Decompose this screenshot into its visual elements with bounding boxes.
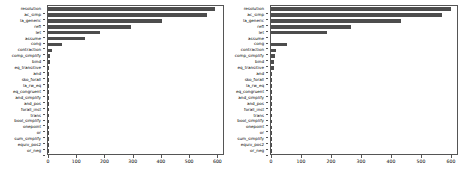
y-tick-label-refl: refl (34, 24, 41, 29)
bar-series-right (271, 6, 457, 154)
bar-ac_simp (48, 13, 207, 17)
y-tick-label-contraction: contraction (18, 48, 41, 53)
y-tick-label-bool_simplify: bool_simplify (14, 119, 41, 124)
y-tick-label-bool_simplify: bool_simplify (237, 119, 264, 124)
y-tick-mark (266, 108, 268, 109)
y-tick-mark (266, 137, 268, 138)
x-tick-label-400: 400 (387, 159, 396, 164)
y-tick-mark (43, 149, 45, 150)
y-tick-label-sum_simplify: sum_simplify (14, 137, 41, 142)
x-tick-mark (271, 155, 272, 158)
bar-refl (271, 25, 351, 29)
y-tick-label-onepoint: onepoint (23, 125, 41, 130)
chart-panel-right: resolutionac_simpla_genericreflletassume… (234, 0, 468, 189)
bar-resolution (271, 7, 451, 11)
y-tick-mark (266, 31, 268, 32)
x-tick-mark (361, 155, 362, 158)
x-tick-label-500: 500 (417, 159, 426, 164)
y-tick-label-ac_simp: ac_simp (247, 13, 264, 18)
y-tick-label-resolution: resolution (21, 7, 41, 12)
y-tick-label-eq_congruent: eq_congruent (13, 90, 41, 95)
y-tick-label-la_rw_eq: la_rw_eq (246, 84, 264, 89)
y-axis-labels-right: resolutionac_simpla_genericreflletassume… (234, 5, 268, 155)
x-tick-label-300: 300 (128, 159, 137, 164)
x-tick-label-600: 600 (447, 159, 456, 164)
y-tick-mark (266, 149, 268, 150)
y-tick-label-assume: assume (248, 36, 264, 41)
y-tick-label-cong: cong (31, 42, 41, 47)
y-tick-label-la_generic: la_generic (243, 19, 264, 24)
x-tick-mark (189, 155, 190, 158)
y-tick-label-bind: bind (255, 60, 264, 65)
y-tick-mark (43, 96, 45, 97)
y-tick-mark (43, 137, 45, 138)
y-tick-mark (266, 96, 268, 97)
y-tick-mark (43, 84, 45, 85)
y-tick-mark (266, 66, 268, 67)
x-tick-label-0: 0 (270, 159, 273, 164)
y-tick-mark (266, 84, 268, 85)
bar-and (48, 72, 49, 76)
y-tick-label-and_pos: and_pos (247, 101, 264, 106)
y-tick-label-eq_transitive: eq_transitive (237, 66, 264, 71)
x-tick-mark (451, 155, 452, 158)
plot-area-left (47, 5, 224, 155)
y-tick-mark (266, 155, 268, 156)
y-tick-mark (43, 66, 45, 67)
x-tick-label-500: 500 (185, 159, 194, 164)
y-tick-mark (43, 155, 45, 156)
bar-refl (48, 25, 131, 29)
y-tick-label-forall_inst: forall_inst (244, 107, 264, 112)
y-tick-mark (266, 90, 268, 91)
x-tick-label-200: 200 (327, 159, 336, 164)
bar-bind (48, 60, 50, 64)
y-tick-label-bind: bind (32, 60, 41, 65)
y-tick-label-or: or (37, 131, 41, 136)
y-tick-label-la_generic: la_generic (20, 19, 41, 24)
y-tick-mark (43, 72, 45, 73)
x-tick-mark (331, 155, 332, 158)
bar-cong (48, 43, 62, 47)
y-tick-mark (266, 19, 268, 20)
y-tick-mark (266, 25, 268, 26)
y-tick-mark (266, 78, 268, 79)
y-tick-mark (43, 13, 45, 14)
y-tick-mark (43, 78, 45, 79)
y-tick-label-sum_simplify: sum_simplify (237, 137, 264, 142)
y-tick-mark (43, 125, 45, 126)
y-tick-mark (43, 90, 45, 91)
x-tick-label-100: 100 (297, 159, 306, 164)
y-tick-label-assume: assume (25, 36, 41, 41)
x-tick-label-100: 100 (72, 159, 81, 164)
y-tick-label-eq_transitive: eq_transitive (14, 66, 41, 71)
y-tick-mark (266, 72, 268, 73)
y-tick-label-equiv_pos2: equiv_pos2 (18, 143, 41, 148)
plot-area-right (270, 5, 458, 155)
y-tick-label-and: and (33, 72, 41, 77)
y-tick-label-and_simplify: and_simplify (15, 95, 41, 100)
y-tick-label-trans: trans (30, 113, 41, 118)
x-tick-label-200: 200 (100, 159, 109, 164)
y-tick-label-or: or (260, 131, 264, 136)
y-tick-label-or_neg: or_neg (250, 149, 264, 154)
y-tick-mark (43, 131, 45, 132)
y-tick-mark (266, 13, 268, 14)
y-tick-mark (43, 102, 45, 103)
y-tick-label-refl: refl (257, 24, 264, 29)
y-tick-label-and_simplify: and_simplify (238, 95, 264, 100)
bar-ac_simp (271, 13, 442, 17)
y-tick-mark (43, 25, 45, 26)
x-tick-mark (301, 155, 302, 158)
y-tick-mark (43, 31, 45, 32)
x-tick-mark (133, 155, 134, 158)
y-tick-label-comp_simplify: comp_simplify (12, 54, 41, 59)
bar-eq_transitive (271, 66, 274, 70)
y-tick-label-sko_forall: sko_forall (245, 78, 264, 83)
bar-la_generic (48, 19, 162, 23)
bar-comp_simplify (271, 54, 275, 58)
y-tick-label-let: let (36, 30, 41, 35)
chart-panel-left: resolutionac_simpla_genericreflletassume… (0, 0, 234, 189)
y-tick-mark (266, 60, 268, 61)
y-tick-label-or_neg: or_neg (27, 149, 41, 154)
y-tick-mark (266, 37, 268, 38)
